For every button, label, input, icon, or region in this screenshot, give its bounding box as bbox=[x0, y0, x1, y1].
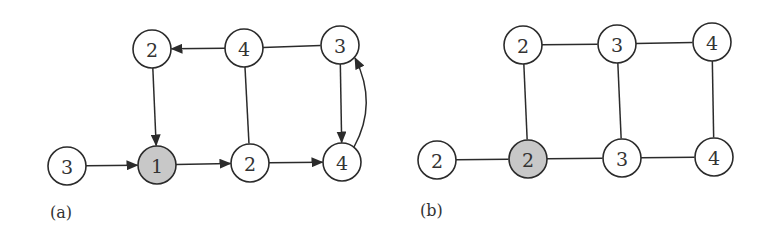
panel-label-a: (a) bbox=[50, 203, 72, 222]
graph-diagram: 24331242342234 (a)(b) bbox=[0, 0, 768, 235]
nodes-layer: 24331242342234 bbox=[48, 23, 733, 185]
directed-edge-a_tl-a_b1 bbox=[153, 68, 156, 146]
directed-edge-a_tr-a_br bbox=[340, 64, 341, 143]
edge-b_bl-b_b2 bbox=[456, 159, 509, 160]
panel-a-nodes: 2433124 bbox=[48, 26, 361, 185]
node-value: 1 bbox=[151, 155, 163, 177]
node-value: 4 bbox=[238, 38, 250, 60]
node-value: 4 bbox=[708, 147, 720, 169]
panel-a-edges bbox=[86, 46, 366, 166]
node-value: 4 bbox=[706, 32, 718, 54]
edge-a_tm-a_bm bbox=[245, 67, 249, 144]
node-value: 2 bbox=[244, 153, 256, 175]
highlighted-node: 1 bbox=[138, 146, 176, 184]
node-value: 3 bbox=[611, 34, 623, 56]
graph-node: 4 bbox=[225, 29, 263, 67]
labels-layer: (a)(b) bbox=[50, 201, 443, 222]
directed-edge-a_br-a_tr bbox=[354, 58, 366, 147]
node-value: 3 bbox=[334, 35, 346, 57]
node-value: 4 bbox=[336, 152, 348, 174]
edge-b_tm-b_bm bbox=[618, 63, 621, 139]
node-value: 3 bbox=[61, 156, 73, 178]
graph-node: 2 bbox=[133, 30, 171, 68]
edge-b_b2-b_bm bbox=[547, 158, 603, 159]
edge-b_tl-b_b2 bbox=[524, 64, 527, 140]
panel-b-nodes: 2342234 bbox=[418, 23, 733, 179]
edge-b_bm-b_br bbox=[641, 157, 695, 158]
node-value: 2 bbox=[522, 149, 534, 171]
panel-b-edges bbox=[456, 42, 714, 159]
node-value: 2 bbox=[146, 39, 158, 61]
directed-edge-a_b1-a_bm bbox=[176, 163, 231, 164]
edge-b_tm-b_tr bbox=[636, 42, 693, 43]
highlighted-node: 2 bbox=[509, 140, 547, 178]
directed-edge-a_bl-a_b1 bbox=[86, 165, 138, 166]
node-value: 2 bbox=[517, 35, 529, 57]
edge-b_tl-b_tm bbox=[542, 44, 598, 45]
graph-node: 4 bbox=[693, 23, 731, 61]
graph-node: 3 bbox=[603, 139, 641, 177]
graph-node: 4 bbox=[323, 143, 361, 181]
figure: 24331242342234 (a)(b) bbox=[0, 0, 768, 235]
directed-edge-a_bm-a_br bbox=[269, 162, 323, 163]
node-value: 3 bbox=[616, 148, 628, 170]
graph-node: 4 bbox=[695, 138, 733, 176]
directed-edge-a_tm-a_tl bbox=[171, 48, 225, 49]
graph-node: 2 bbox=[418, 141, 456, 179]
node-value: 2 bbox=[431, 150, 443, 172]
graph-node: 3 bbox=[48, 147, 86, 185]
graph-node: 3 bbox=[321, 26, 359, 64]
edge-a_tm-a_tr bbox=[263, 46, 321, 48]
panel-label-b: (b) bbox=[420, 201, 443, 220]
graph-node: 2 bbox=[231, 144, 269, 182]
edge-b_tr-b_br bbox=[712, 61, 713, 138]
graph-node: 3 bbox=[598, 25, 636, 63]
graph-node: 2 bbox=[504, 26, 542, 64]
